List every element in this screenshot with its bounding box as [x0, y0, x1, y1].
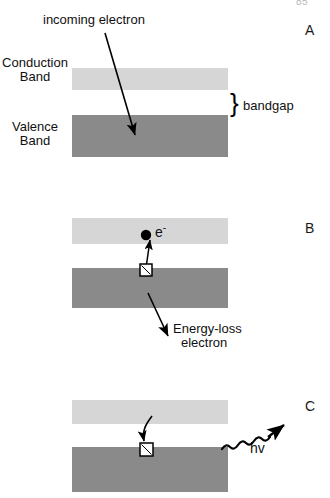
page-number: 85	[296, 0, 308, 7]
conduction-band-a	[72, 68, 228, 90]
valence-band-b	[72, 268, 228, 308]
electron-charge: -	[163, 222, 166, 233]
conduction-band-c	[72, 400, 228, 424]
figure-band-diagram: 85 A incoming electron Conduction Band V…	[0, 0, 330, 498]
label-photon-hv: hv	[250, 441, 265, 457]
label-valence-band-line2: Band	[2, 134, 68, 149]
electron-letter: e	[155, 224, 163, 240]
panel-letter-c: C	[305, 398, 315, 414]
photon-arrow	[268, 425, 284, 437]
label-energy-loss-line2: electron	[181, 336, 227, 351]
bandgap-bracket: }	[230, 90, 239, 116]
conduction-band-b	[72, 218, 228, 244]
valence-band-a	[72, 115, 228, 157]
panel-letter-b: B	[305, 220, 314, 236]
recombination-arrow-b	[146, 240, 150, 268]
label-incoming-electron: incoming electron	[43, 13, 145, 28]
label-bandgap: bandgap	[243, 99, 294, 114]
panel-letter-a: A	[305, 22, 314, 38]
valence-band-c	[72, 447, 228, 492]
label-electron-symbol: e-	[155, 222, 166, 240]
label-conduction-band-line2: Band	[2, 70, 68, 85]
